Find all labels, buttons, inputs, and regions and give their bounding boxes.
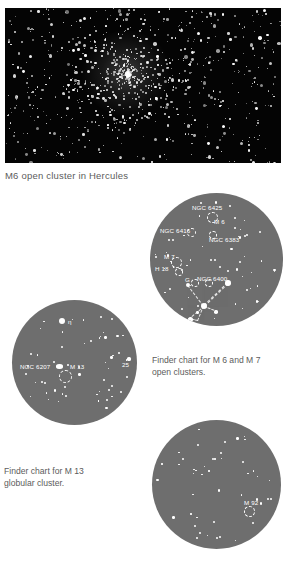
photo-star — [144, 19, 146, 21]
photo-star — [68, 41, 70, 43]
photo-star — [259, 135, 260, 136]
chart-star — [261, 260, 262, 261]
chart-star — [30, 396, 31, 397]
photo-star — [96, 114, 99, 117]
photo-star — [129, 117, 131, 119]
photo-star — [78, 139, 80, 141]
photo-star — [31, 75, 34, 78]
photo-star — [229, 127, 230, 128]
photo-star — [187, 79, 190, 82]
photo-star — [53, 132, 56, 135]
chart-star — [182, 458, 184, 460]
photo-star — [69, 50, 70, 51]
photo-star — [63, 86, 64, 87]
photo-star — [67, 63, 70, 66]
photo-star — [234, 71, 235, 72]
photo-star — [71, 119, 72, 120]
photo-star — [189, 63, 192, 66]
bright-star — [214, 310, 218, 314]
photo-star — [103, 34, 104, 35]
chart-star — [214, 259, 216, 261]
photo-star — [63, 158, 65, 160]
photo-star — [78, 41, 81, 44]
photo-star — [30, 116, 31, 117]
photo-star — [74, 88, 76, 90]
photo-star — [227, 32, 230, 35]
chart-star — [111, 396, 112, 397]
photo-star — [178, 26, 179, 27]
photo-star — [175, 37, 177, 39]
photo-star — [21, 41, 23, 43]
photo-star — [229, 161, 230, 162]
photo-star — [242, 28, 243, 29]
photo-star — [53, 9, 54, 10]
photo-star — [26, 62, 27, 63]
chart-label: G — [185, 277, 190, 283]
photo-star — [172, 75, 173, 76]
photo-star — [252, 15, 253, 16]
photo-star — [155, 121, 156, 122]
photo-star — [223, 45, 226, 48]
photo-star — [178, 79, 181, 82]
chart-star — [108, 389, 110, 391]
photo-star — [79, 99, 80, 100]
chart-star — [252, 522, 254, 524]
photo-star — [66, 115, 67, 116]
photo-star — [209, 12, 212, 15]
photo-star — [212, 158, 213, 159]
photo-star — [41, 147, 42, 148]
finder-chart-m13: ηNGC 6207M 1325 — [12, 300, 137, 425]
photo-star — [214, 98, 216, 100]
chart-star — [199, 215, 200, 216]
photo-star — [16, 105, 17, 106]
photo-star — [15, 16, 16, 17]
photo-star — [280, 25, 281, 26]
photo-star — [234, 161, 235, 162]
photo-star — [35, 95, 36, 96]
chart-star — [37, 354, 38, 355]
chart-star — [199, 532, 201, 534]
photo-star — [41, 36, 43, 38]
chart-star — [164, 292, 165, 293]
photo-star — [218, 99, 219, 100]
chart-star — [190, 259, 191, 260]
photo-star — [56, 155, 57, 156]
photo-star — [84, 127, 86, 129]
photo-star — [208, 62, 210, 64]
photo-star — [123, 19, 125, 21]
photo-star — [181, 82, 183, 84]
photo-star — [252, 161, 255, 163]
photo-star — [77, 127, 79, 129]
photo-star — [188, 64, 189, 65]
photo-star — [14, 107, 16, 109]
photo-star — [70, 79, 72, 81]
photo-star — [82, 133, 85, 136]
photo-star — [223, 132, 226, 135]
photo-star — [190, 61, 192, 63]
photo-star — [205, 136, 206, 137]
photo-star — [188, 133, 189, 134]
chart-star — [178, 464, 179, 465]
photo-star — [191, 72, 193, 74]
photo-star — [32, 91, 34, 93]
chart-star — [197, 305, 199, 307]
photo-star — [57, 114, 58, 115]
chart-label: 25 — [122, 362, 129, 368]
photo-star — [164, 154, 165, 155]
photo-star — [164, 113, 165, 114]
photo-star — [273, 51, 275, 53]
chart-star — [234, 227, 236, 229]
photo-star — [115, 127, 116, 128]
photo-star — [229, 118, 231, 120]
photo-star — [172, 59, 174, 61]
photo-star — [272, 49, 273, 50]
photo-star — [170, 139, 171, 140]
photo-star — [173, 107, 174, 108]
photo-star — [254, 81, 256, 83]
photo-star — [110, 15, 111, 16]
photo-star — [80, 112, 82, 114]
photo-star — [140, 18, 142, 20]
photo-star — [235, 104, 236, 105]
chart-star — [43, 321, 44, 322]
photo-star — [105, 25, 107, 27]
